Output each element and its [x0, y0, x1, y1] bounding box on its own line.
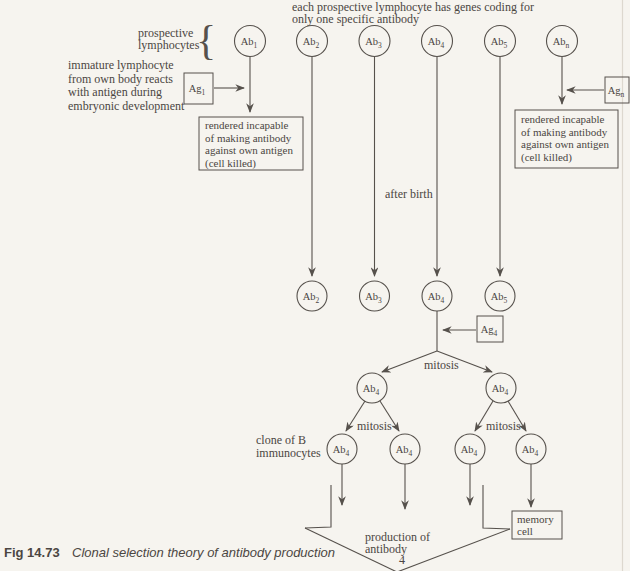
- killed-note-line2: of making antibody: [521, 126, 608, 138]
- cell-label-subscript: 4: [346, 449, 350, 458]
- cell-top-ab2: Ab2: [297, 26, 328, 57]
- svg-text:Ag4: Ag4: [481, 324, 498, 338]
- generation2-cells: Ab4 Ab4: [357, 373, 516, 403]
- killed-note-line1: rendered incapable: [521, 113, 604, 125]
- cell-label: Ab: [363, 383, 376, 394]
- cell-surviving-ab2: Ab2: [297, 281, 327, 311]
- cell-top-ab5: Ab5: [485, 26, 516, 57]
- header-note: each prospective lymphocyte has genes co…: [292, 0, 534, 26]
- clone-output-arrows: [342, 464, 531, 509]
- cell-gen3-2: Ab4: [390, 434, 420, 464]
- killed-note-line3: against own antigen: [521, 138, 609, 150]
- cell-top-ab3: Ab3: [359, 26, 390, 57]
- cell-label-subscript: 2: [316, 296, 320, 305]
- funnel-right-bracket: [483, 485, 510, 529]
- cell-label-subscript: 4: [535, 449, 539, 458]
- killed-note-line1: rendered incapable: [205, 119, 288, 131]
- killed-note-line3: against own antigen: [205, 144, 293, 156]
- cell-gen2-right: Ab4: [486, 373, 516, 403]
- caption-title: Clonal selection theory of antibody prod…: [72, 545, 335, 560]
- immature-lymphocyte-note: immature lymphocyte from own body reacts…: [68, 58, 185, 113]
- cell-surviving-ab4: Ab4: [422, 281, 452, 311]
- cell-label-subscript: 5: [504, 296, 508, 305]
- mitosis-split-1: mitosis: [382, 351, 492, 372]
- killed-note-line2: of making antibody: [205, 132, 292, 144]
- agn-label-subscript: n: [621, 90, 625, 99]
- brace-glyph: {: [196, 17, 216, 63]
- after-birth-label: after birth: [385, 187, 433, 201]
- immature-note-line2: from own body reacts: [68, 72, 173, 86]
- ag1-label-subscript: 1: [202, 88, 206, 97]
- clonal-selection-diagram: each prospective lymphocyte has genes co…: [0, 0, 630, 571]
- prospective-label-line2: lymphocytes: [138, 38, 200, 52]
- cell-label: Ab: [491, 291, 504, 302]
- cell-label: Ab: [491, 36, 504, 47]
- antigen-ag1: Ag1: [184, 73, 244, 104]
- mitosis-split-2-left: mitosis: [346, 401, 399, 433]
- survival-arrows: [312, 57, 500, 276]
- production-label-line3: 4: [399, 553, 405, 567]
- header-note-line2: only one specific antibody: [292, 12, 419, 26]
- cell-label-subscript: 3: [378, 41, 382, 50]
- antigen-ag4: Ag4: [443, 316, 503, 342]
- ag4-label-subscript: 4: [494, 329, 498, 338]
- caption-fig-number: Fig 14.73: [4, 545, 60, 560]
- cell-surviving-ab3: Ab3: [360, 281, 390, 311]
- cell-label-subscript: 4: [441, 296, 445, 305]
- cell-label: Ab: [365, 36, 378, 47]
- cell-label-subscript: 4: [505, 388, 509, 397]
- production-funnel: production of antibody 4: [305, 485, 510, 571]
- killed-note-line4: (cell killed): [521, 151, 572, 164]
- cell-label: Ab: [428, 291, 441, 302]
- immature-note-line1: immature lymphocyte: [68, 58, 174, 72]
- cell-label: Ab: [428, 36, 441, 47]
- funnel-left-bracket: [305, 485, 331, 528]
- cell-label-subscript: 5: [504, 41, 508, 50]
- cell-label-subscript: 4: [409, 449, 413, 458]
- mitosis-label-3: mitosis: [486, 419, 521, 433]
- cell-gen3-3: Ab4: [455, 434, 485, 464]
- cell-surviving-ab5: Ab5: [485, 281, 515, 311]
- antigen-agn: Agn: [567, 77, 629, 103]
- cell-label-subscript: 1: [254, 41, 258, 50]
- cell-label-subscript: 2: [316, 41, 320, 50]
- prospective-lymphocytes-label: prospective lymphocytes {: [138, 17, 216, 63]
- rendered-incapable-box-left: rendered incapable of making antibody ag…: [199, 117, 303, 170]
- cell-label-subscript: 4: [474, 449, 478, 458]
- surviving-row-cells: Ab2 Ab3 Ab4 Ab5: [297, 281, 515, 311]
- cell-label-subscript: 3: [378, 296, 382, 305]
- mitosis-label-2: mitosis: [357, 419, 392, 433]
- cell-label: Ab: [241, 36, 254, 47]
- cell-label: Ab: [522, 444, 535, 455]
- cell-gen2-left: Ab4: [357, 373, 387, 403]
- clone-label-line1: clone of B: [256, 433, 306, 447]
- rendered-incapable-box-right: rendered incapable of making antibody ag…: [515, 110, 618, 168]
- top-row-cells: Ab1 Ab2 Ab3 Ab4 Ab5 Abn: [235, 26, 578, 57]
- cell-label-subscript: 4: [441, 41, 445, 50]
- cell-label: Ab: [396, 444, 409, 455]
- immature-note-line3: with antigen during: [68, 85, 162, 99]
- mitosis-split-2-right: mitosis: [475, 401, 526, 433]
- generation3-cells: Ab4 Ab4 Ab4 Ab4: [327, 434, 546, 464]
- ag4-label: Ag: [481, 324, 495, 335]
- immature-note-line4: embryonic development: [68, 99, 185, 113]
- cell-top-ab4: Ab4: [422, 26, 453, 57]
- memory-cell-box: memory cell: [512, 511, 562, 539]
- clone-label: clone of B immunocytes: [256, 433, 321, 460]
- cell-label: Ab: [365, 291, 378, 302]
- ag1-label: Ag: [189, 83, 203, 94]
- memory-cell-line2: cell: [517, 525, 533, 537]
- cell-label: Ab: [553, 36, 566, 47]
- cell-label: Ab: [492, 383, 505, 394]
- agn-label: Ag: [608, 85, 622, 96]
- cell-label: Ab: [461, 444, 474, 455]
- cell-top-ab1: Ab1: [235, 26, 266, 57]
- cell-label: Ab: [333, 444, 346, 455]
- cell-label: Ab: [303, 36, 316, 47]
- svg-text:Ag1: Ag1: [189, 83, 206, 97]
- cell-top-abn: Abn: [547, 26, 578, 57]
- cell-label-subscript: 4: [376, 388, 380, 397]
- killed-note-line4: (cell killed): [205, 157, 256, 170]
- memory-cell-line1: memory: [517, 513, 554, 525]
- clone-label-line2: immunocytes: [256, 446, 321, 460]
